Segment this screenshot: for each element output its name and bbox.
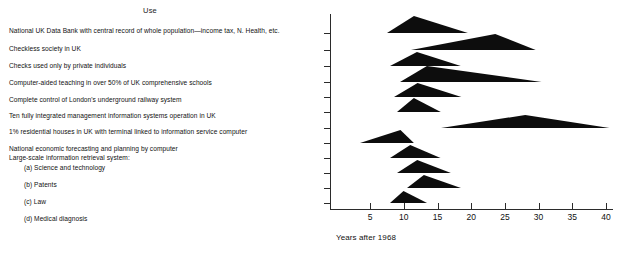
use-column-title: Use (0, 6, 300, 15)
forecast-triangle-shape (411, 34, 536, 50)
y-axis-tick (324, 112, 330, 113)
x-axis-tick (471, 203, 472, 209)
forecast-triangle (411, 34, 536, 51)
use-item: Checks used only by private individuals (9, 62, 126, 70)
y-axis-tick (324, 50, 330, 51)
x-axis-tick-label: 5 (368, 212, 373, 222)
x-axis-tick-label: 15 (433, 212, 442, 222)
use-item: Checkless society in UK (9, 45, 81, 53)
x-axis-tick-label: 35 (568, 212, 577, 222)
y-axis-tick (324, 33, 330, 34)
forecast-triangle (400, 66, 542, 83)
forecast-triangle (407, 175, 461, 189)
x-axis-tick (438, 203, 439, 209)
use-item: (b) Patents (24, 181, 57, 189)
y-axis-tick (324, 66, 330, 67)
x-axis-tick-label: 10 (399, 212, 408, 222)
forecast-triangle (441, 115, 610, 129)
forecast-triangle (390, 52, 461, 67)
x-axis-tick-label: 40 (601, 212, 610, 222)
y-axis-tick (324, 143, 330, 144)
use-item: (d) Medical diagnosis (24, 215, 87, 223)
y-axis-tick (324, 173, 330, 174)
x-axis-tick (505, 203, 506, 209)
forecast-triangle-shape (387, 16, 468, 33)
forecast-triangle (390, 191, 427, 204)
x-axis-tick (539, 203, 540, 209)
forecast-triangle (397, 98, 441, 113)
use-item: (a) Science and technology (24, 164, 105, 172)
x-axis-tick-label: 25 (500, 212, 509, 222)
y-axis-tick (324, 188, 330, 189)
use-column: Use National UK Data Bank with central r… (0, 0, 320, 263)
use-item: 1% residential houses in UK with termina… (9, 128, 247, 136)
x-axis-tick (606, 203, 607, 209)
use-item: National UK Data Bank with central recor… (9, 27, 280, 35)
use-item: (c) Law (24, 198, 46, 206)
y-axis-line (330, 14, 331, 210)
use-item: National economic forecasting and planni… (9, 145, 178, 153)
forecast-triangle (394, 83, 461, 98)
plot-area: 510152025303540 (320, 0, 628, 263)
use-item: Ten fully integrated management informat… (9, 112, 216, 120)
x-axis-tick (370, 203, 371, 209)
x-axis-tick-label: 30 (534, 212, 543, 222)
x-axis-tick-label: 20 (466, 212, 475, 222)
y-axis-tick (324, 82, 330, 83)
forecast-triangle-shape (390, 145, 441, 158)
forecast-triangle (360, 130, 414, 144)
forecast-triangle-shape (407, 175, 461, 188)
y-axis-tick (324, 203, 330, 204)
forecast-triangle-shape (390, 52, 461, 66)
y-axis-tick (324, 158, 330, 159)
x-axis-tick (572, 203, 573, 209)
forecast-triangle-shape (394, 83, 461, 97)
use-item: Computer-aided teaching in over 50% of U… (9, 79, 212, 87)
chart-panel: 510152025303540 Years after 1968 (320, 0, 628, 263)
forecast-triangle (387, 16, 468, 34)
use-item: Large-scale information retrieval system… (9, 154, 130, 162)
x-axis-title: Years after 1968 (336, 233, 396, 242)
y-axis-tick (324, 97, 330, 98)
forecast-triangle (390, 145, 441, 159)
forecast-triangle-shape (400, 66, 542, 82)
y-axis-tick (324, 128, 330, 129)
forecast-triangle-shape (397, 98, 441, 112)
forecast-triangle (397, 160, 451, 174)
forecast-triangle-shape (360, 130, 414, 143)
use-item: Complete control of London's underground… (9, 96, 182, 104)
forecast-triangle-shape (390, 191, 427, 203)
forecast-figure: Use National UK Data Bank with central r… (0, 0, 628, 263)
forecast-triangle-shape (441, 115, 610, 128)
forecast-triangle-shape (397, 160, 451, 173)
x-axis-line (330, 209, 613, 210)
